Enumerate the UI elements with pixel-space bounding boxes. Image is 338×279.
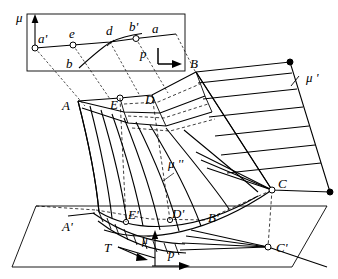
label-T: T xyxy=(104,240,112,255)
fan-to-C: C xyxy=(196,152,287,193)
label-mu-double-prime: μ '' xyxy=(167,156,184,171)
label-mu-prime: μ ' xyxy=(305,70,319,85)
inset-p-arrow xyxy=(158,48,182,68)
inset-label-mu: μ xyxy=(15,10,23,25)
label-B-prime: B' xyxy=(208,210,219,225)
figure-root: a' e d b' a b p μ μ ' B xyxy=(0,0,338,279)
inset-label-d: d xyxy=(106,23,113,38)
label-E-prime: E' xyxy=(127,207,139,222)
inset-label-b-prime: b' xyxy=(129,19,139,34)
label-C-prime: C' xyxy=(276,240,288,255)
label-E: E xyxy=(109,97,118,112)
vertical-projectors xyxy=(120,95,170,222)
label-D: D xyxy=(144,92,155,107)
mu-prime-ruled-surface: μ ' B xyxy=(190,56,333,195)
label-A: A xyxy=(61,98,70,113)
inset-label-b: b xyxy=(66,56,73,71)
label-D-prime: D' xyxy=(171,206,184,221)
inset-label-a-prime: a' xyxy=(38,31,48,46)
upper-band-AEDB: A E D xyxy=(61,72,215,131)
inset-detail-box: a' e d b' a b p μ xyxy=(15,10,196,106)
geometry-diagram: a' e d b' a b p μ μ ' B xyxy=(0,0,338,279)
label-A-prime: A' xyxy=(61,219,73,234)
inset-label-a: a xyxy=(152,21,159,36)
label-p: p xyxy=(167,246,175,261)
inset-label-e: e xyxy=(69,26,75,41)
label-B: B xyxy=(190,56,198,71)
mu-bar-arrow: μ̄ xyxy=(141,230,158,258)
inset-label-p: p xyxy=(139,46,147,61)
label-C: C xyxy=(278,176,287,191)
